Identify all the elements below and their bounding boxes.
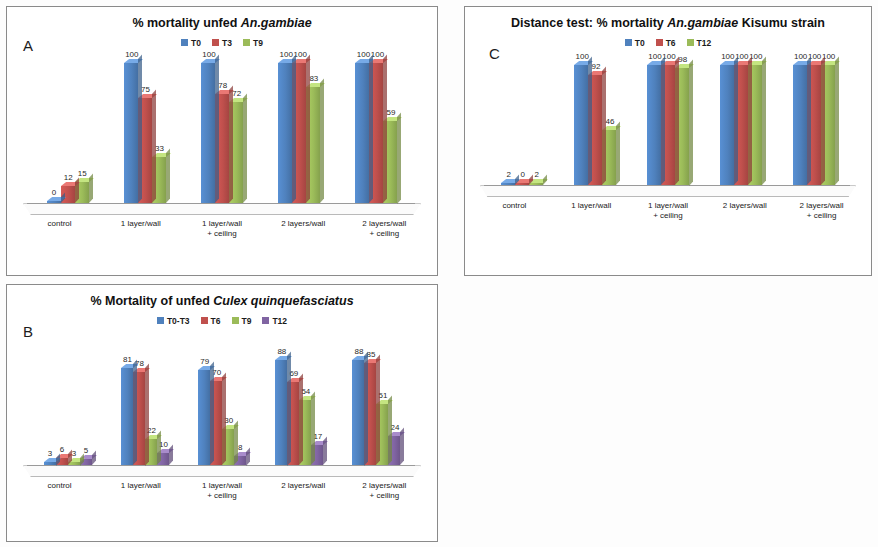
bar-side-face xyxy=(306,55,310,203)
bar-side-face xyxy=(762,57,766,185)
bar-face xyxy=(355,63,369,203)
bar-side-face xyxy=(689,59,693,185)
bar-value-label: 100 xyxy=(357,50,370,59)
legend-swatch-icon xyxy=(625,39,632,46)
chart-groups: 36358178221079703088869541788855124 xyxy=(29,331,415,465)
bar-value-label: 75 xyxy=(141,85,150,94)
bar-side-face xyxy=(138,55,142,203)
chart-baseline xyxy=(27,203,415,204)
bar-value-label: 46 xyxy=(605,117,614,126)
bar-side-face xyxy=(145,363,149,465)
legend-item-T6: T6 xyxy=(201,317,221,326)
bar-group: 1009246 xyxy=(574,53,616,185)
bar-group: 1007533 xyxy=(124,51,166,203)
bar-side-face xyxy=(616,121,620,185)
panel-a-title-species: An.gambiae xyxy=(241,16,312,30)
bar-value-label: 100 xyxy=(721,52,734,61)
bar-cluster: 88855124 xyxy=(352,331,400,465)
x-axis-label: 2 layers/wall xyxy=(267,219,339,239)
x-axis-label: 2 layers/wall + ceiling xyxy=(348,481,420,501)
bar-value-label: 5 xyxy=(84,446,88,455)
bar-value-label: 100 xyxy=(576,52,589,61)
legend-swatch-icon xyxy=(212,39,219,46)
legend-item-T9: T9 xyxy=(232,317,252,326)
chart-groups: 01215100753310078721001008310010059 xyxy=(29,51,415,203)
bar-side-face xyxy=(133,359,137,465)
panel-c-title-prefix: Distance test: % mortality xyxy=(511,16,667,30)
panel-a-title: % mortality unfed An.gambiae xyxy=(7,16,437,32)
bar-value-label: 15 xyxy=(78,169,87,178)
panel-c-legend: T0T6T12 xyxy=(465,39,871,48)
bar-side-face xyxy=(292,55,296,203)
bar-cluster: 100100100 xyxy=(793,53,835,185)
bar-side-face xyxy=(661,57,665,185)
bar-value-label: 12 xyxy=(64,173,73,182)
bar-value-label: 59 xyxy=(387,108,396,117)
legend-swatch-icon xyxy=(157,317,164,324)
x-axis-label: 2 layers/wall xyxy=(267,481,339,501)
bar-value-label: 33 xyxy=(155,144,164,153)
x-axis-label: 2 layers/wall + ceiling xyxy=(786,201,858,221)
x-axis-label: control xyxy=(24,481,96,501)
legend-label: T6 xyxy=(211,317,221,326)
bar-value-label: 8 xyxy=(238,443,242,452)
bar-face xyxy=(352,360,364,466)
bar: 0 xyxy=(47,201,61,203)
bar-face xyxy=(124,63,138,203)
legend-label: T9 xyxy=(253,39,263,48)
bar: 100 xyxy=(355,63,369,203)
bar-side-face xyxy=(400,428,404,465)
panel-b-title-prefix: % Mortality of unfed xyxy=(90,294,213,308)
bar-side-face xyxy=(152,90,156,203)
bar-value-label: 79 xyxy=(200,357,209,366)
bar-side-face xyxy=(157,430,161,465)
bar-face xyxy=(201,63,215,203)
x-axis-label: 2 layers/wall xyxy=(709,201,781,221)
bar-group: 10010098 xyxy=(647,53,689,185)
chart-groups: 202100924610010098100100100100100100 xyxy=(486,53,850,185)
legend-label: T6 xyxy=(666,39,676,48)
bar-cluster: 10010083 xyxy=(278,51,320,203)
legend-label: T3 xyxy=(222,39,232,48)
bar: 100 xyxy=(201,63,215,203)
bar-side-face xyxy=(588,57,592,185)
bar-side-face xyxy=(383,55,387,203)
panel-a-legend: T0T3T9 xyxy=(7,39,437,48)
x-axis-label: control xyxy=(24,219,96,239)
x-axis-labels: control1 layer/wall1 layer/wall + ceilin… xyxy=(476,201,860,221)
bar-face xyxy=(515,183,529,185)
panel-b-title-species: Culex quinquefasciatus xyxy=(213,294,353,308)
x-axis-label: control xyxy=(478,201,550,221)
bar-side-face xyxy=(734,57,738,185)
bar-group: 88855124 xyxy=(352,331,400,465)
bar-group: 81782210 xyxy=(121,331,169,465)
x-axis-label: 1 layer/wall xyxy=(105,481,177,501)
x-axis-label: 2 layers/wall + ceiling xyxy=(348,219,420,239)
legend-swatch-icon xyxy=(181,39,188,46)
bar: 2 xyxy=(501,183,515,185)
bar-side-face xyxy=(543,174,547,185)
panel-b-legend: T0-T3T6T9T12 xyxy=(7,317,437,326)
x-axis-labels: control1 layer/wall1 layer/wall + ceilin… xyxy=(19,481,425,501)
bar-side-face xyxy=(323,436,327,465)
chart-baseline xyxy=(484,185,850,186)
bar-value-label: 92 xyxy=(591,62,600,71)
panel-a-plot: 01215100753310078721001008310010059contr… xyxy=(17,51,427,251)
bar: 100 xyxy=(720,65,734,185)
bar-value-label: 72 xyxy=(232,89,241,98)
x-axis-label: 1 layer/wall xyxy=(555,201,627,221)
bar-face xyxy=(44,462,56,466)
bar-value-label: 100 xyxy=(202,50,215,59)
bar: 100 xyxy=(278,63,292,203)
legend-label: T9 xyxy=(242,317,252,326)
bar-group: 100100100 xyxy=(720,53,762,185)
bar-cluster: 3635 xyxy=(44,331,92,465)
bar: 100 xyxy=(793,65,807,185)
bar-value-label: 98 xyxy=(678,55,687,64)
bar: 100 xyxy=(124,63,138,203)
bar-side-face xyxy=(166,148,170,203)
legend-label: T0-T3 xyxy=(167,317,190,326)
panel-a-title-prefix: % mortality unfed xyxy=(132,16,240,30)
bar: 3 xyxy=(44,462,56,466)
bar-value-label: 100 xyxy=(280,50,293,59)
